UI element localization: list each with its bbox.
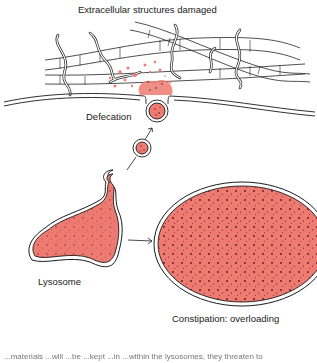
lysosome-cell xyxy=(29,170,122,267)
arrow-to-constipation xyxy=(128,238,152,244)
migrating-vesicle xyxy=(133,139,151,157)
title-label: Extracellular structures damaged xyxy=(78,4,217,15)
defecation-label: Defecation xyxy=(86,111,131,122)
lysosome-label: Lysosome xyxy=(38,276,81,287)
lysosome-diagram xyxy=(0,0,317,363)
vesicle-path-line xyxy=(127,157,136,170)
figure-caption: ...materials ...will ...be ...kept ...in… xyxy=(4,352,263,361)
constipation-label: Constipation: overloading xyxy=(172,313,279,324)
exocytosis-vesicle xyxy=(146,100,168,122)
overloaded-lysosome xyxy=(154,182,317,306)
